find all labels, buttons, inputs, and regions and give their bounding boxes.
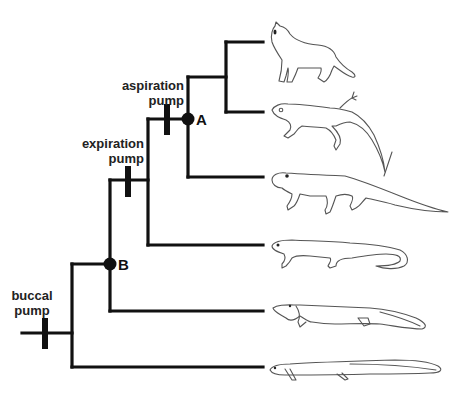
expiration-pump-tick [125, 166, 131, 197]
expiration-pump-label-line2: pump [60, 151, 144, 166]
expiration-pump-label: expiration pump [60, 136, 144, 166]
node-a-label: A [196, 112, 207, 127]
salamander-outline-icon [272, 240, 407, 269]
synapsid-reptile-outline-icon [272, 152, 448, 214]
lizard-outline-icon [272, 92, 385, 172]
node-b-dot [104, 258, 117, 271]
aspiration-pump-label: aspiration pump [100, 78, 184, 108]
eel-like-fish-outline-icon [270, 360, 441, 380]
cladogram-diagram: buccal pump expiration pump aspiration p… [0, 0, 470, 399]
aspiration-pump-label-line1: aspiration [100, 78, 184, 93]
cat-outline-icon [271, 22, 355, 82]
buccal-pump-label-line2: pump [0, 303, 64, 318]
lungfish-outline-icon [273, 305, 425, 329]
aspiration-pump-tick [164, 104, 170, 135]
tree-lines [0, 0, 470, 399]
buccal-pump-label: buccal pump [0, 288, 64, 318]
buccal-pump-tick [42, 318, 48, 349]
buccal-pump-label-line1: buccal [0, 288, 64, 303]
node-a-dot [182, 113, 195, 126]
expiration-pump-label-line1: expiration [60, 136, 144, 151]
node-b-label: B [118, 257, 129, 272]
aspiration-pump-label-line2: pump [100, 93, 184, 108]
